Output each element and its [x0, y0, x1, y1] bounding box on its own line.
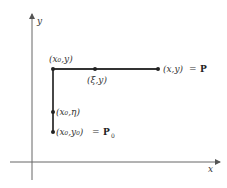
- point-P: [156, 67, 160, 71]
- point-corner: [51, 67, 55, 71]
- label-eta: (x₀,η): [56, 107, 80, 117]
- label-P-name: P: [200, 64, 207, 74]
- point-eta: [51, 110, 55, 114]
- label-corner: (x₀,y): [49, 54, 73, 64]
- x-axis-label: x: [208, 164, 213, 174]
- label-P0-subscript: 0: [111, 132, 115, 139]
- label-P0-name: P: [103, 127, 110, 137]
- path-diagram: y x (x₀,y) (ξ,y) (x,y) = P (x₀,η) (x₀,y₀…: [0, 0, 227, 188]
- label-P-equals: =: [189, 64, 197, 74]
- label-P0-coords: (x₀,y₀): [56, 127, 84, 137]
- y-axis-label: y: [36, 16, 43, 26]
- point-xi: [93, 67, 97, 71]
- point-P0: [51, 130, 55, 134]
- label-P-coords: (x,y): [163, 64, 184, 74]
- label-P0-equals: =: [92, 127, 100, 137]
- label-xi: (ξ,y): [87, 75, 107, 85]
